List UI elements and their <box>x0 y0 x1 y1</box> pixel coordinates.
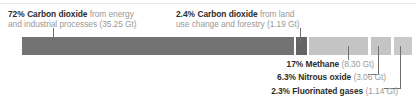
annotation-co2-land-line2: use change and forestry (1.19 Gt) <box>176 19 300 29</box>
leader-line-methane <box>348 46 349 60</box>
annotation-co2-land-percent: 2.4% <box>176 9 195 19</box>
bar-segment-fluorinated-gases[interactable] <box>394 37 412 55</box>
annotation-nitrous-oxide-value: (3.06 Gt) <box>351 72 386 82</box>
annotation-fluorinated-percent: 2.3% <box>271 86 290 96</box>
leader-line-co2-energy <box>53 28 54 44</box>
annotation-co2-energy-rest: from energy <box>87 9 133 19</box>
bar-segment-co2-land-use-forestry[interactable] <box>296 37 307 55</box>
annotation-fluorinated-value: (1.14 Gt) <box>363 86 398 96</box>
emissions-by-gas-chart: 72%Carbon dioxide from energy and indust… <box>0 0 416 107</box>
annotation-methane-percent: 17% <box>287 59 304 69</box>
annotation-co2-energy-line2: and industrial processes (35.25 Gt) <box>8 19 137 29</box>
leader-line-nitrous-oxide-vertical <box>378 46 379 74</box>
leader-line-fluorinated-vertical <box>400 46 401 88</box>
annotation-co2-energy-percent: 72% <box>8 9 25 19</box>
annotation-fluorinated-gases: 2.3% Fluorinated gases (1.14 Gt) <box>271 86 398 96</box>
annotation-co2-land-use-forestry: 2.4%Carbon dioxide from land use change … <box>176 9 300 30</box>
annotation-nitrous-oxide-percent: 6.3% <box>277 72 296 82</box>
annotation-co2-energy-industrial: 72%Carbon dioxide from energy and indust… <box>8 9 137 30</box>
annotation-methane-gas: Methane <box>303 59 339 69</box>
bar-segment-co2-energy-industrial[interactable] <box>22 37 294 55</box>
annotation-methane-value: (8.30 Gt) <box>339 59 374 69</box>
bar-segment-nitrous-oxide[interactable] <box>371 37 391 55</box>
annotation-co2-land-gas: Carbon dioxide <box>197 9 257 19</box>
annotation-nitrous-oxide: 6.3% Nitrous oxide (3.06 Gt) <box>277 72 386 82</box>
page-crop-rule <box>0 3 416 4</box>
annotation-co2-land-rest: from land <box>258 9 295 19</box>
bar-segment-methane[interactable] <box>309 37 368 55</box>
annotation-nitrous-oxide-gas: Nitrous oxide <box>296 72 351 82</box>
annotation-methane: 17% Methane (8.30 Gt) <box>287 59 374 69</box>
annotation-fluorinated-gas: Fluorinated gases <box>290 86 363 96</box>
annotation-co2-energy-gas: Carbon dioxide <box>27 9 87 19</box>
leader-line-co2-land-use <box>300 28 301 44</box>
stacked-bar <box>22 37 412 55</box>
